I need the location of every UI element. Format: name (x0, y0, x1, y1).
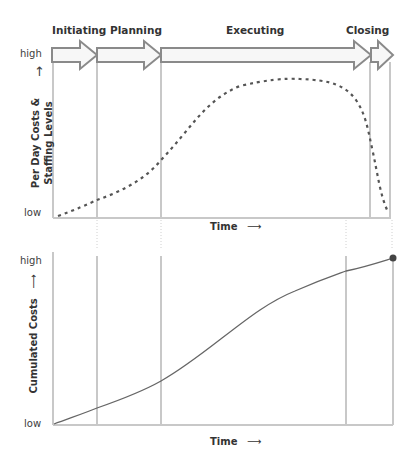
bottom-y-title-text: Cumulated Costs (28, 298, 39, 393)
phase-label-closing: Closing (346, 24, 389, 36)
top-y-axis-title: Per Day Costs & Staffing Levels (29, 88, 57, 198)
bottom-x-arrow-icon: ⟶ (247, 436, 261, 447)
bottom-y-low-label: low (24, 418, 41, 429)
arrow-initiating (52, 41, 97, 69)
top-y-arrow-icon: ↑ (34, 64, 45, 79)
top-x-axis-title: Time ⟶ (210, 221, 261, 232)
top-x-arrow-icon: ⟶ (247, 221, 261, 232)
end-point-dot (390, 255, 397, 262)
top-y-title-line1: Per Day Costs & (29, 88, 42, 198)
top-y-low-label: low (24, 207, 41, 218)
top-y-title-line2: Staffing Levels (42, 88, 55, 198)
bottom-y-axis-title: Cumulated Costs ⟶ (27, 274, 41, 394)
arrow-planning (97, 41, 161, 69)
phase-label-executing: Executing (226, 24, 284, 36)
phase-label-initiating: Initiating (52, 24, 106, 36)
phase-label-planning: Planning (110, 24, 162, 36)
arrow-executing (161, 41, 371, 69)
bottom-x-title-text: Time (210, 436, 237, 447)
per-day-cost-curve (58, 79, 388, 216)
bottom-y-arrow-icon: ⟶ (28, 274, 39, 288)
phase-diagram-graphics (0, 0, 416, 462)
bottom-chart-frame (53, 252, 393, 425)
top-x-title-text: Time (210, 221, 237, 232)
top-y-high-label: high (20, 48, 42, 59)
phase-arrows (52, 41, 393, 69)
bottom-y-high-label: high (20, 255, 42, 266)
bottom-x-axis-title: Time ⟶ (210, 436, 261, 447)
cumulated-cost-curve (54, 258, 393, 424)
